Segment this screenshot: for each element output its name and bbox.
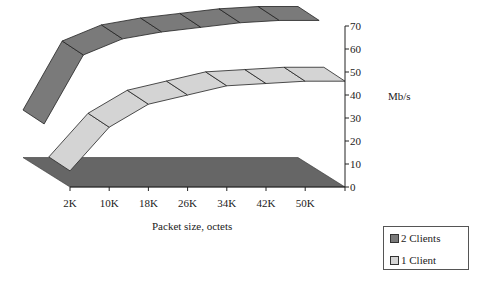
y-tick-label: 70	[350, 20, 362, 32]
x-tick-label: 18K	[139, 197, 158, 209]
x-tick-label: 42K	[257, 197, 276, 209]
legend-label-1-client: 1 Client	[401, 254, 436, 266]
legend-item-2-clients: 2 Clients	[390, 232, 440, 244]
legend-item-1-client: 1 Client	[390, 254, 436, 266]
y-tick-label: 50	[350, 66, 362, 78]
y-tick-label: 10	[350, 158, 362, 170]
legend-swatch-2-clients	[390, 234, 399, 243]
series-2-clients-ribbon	[23, 7, 319, 124]
x-tick-label: 2K	[63, 197, 77, 209]
y-tick-label: 20	[350, 135, 362, 147]
series-1-client-ribbon	[49, 67, 345, 171]
x-tick-label: 10K	[100, 197, 119, 209]
x-axis: 2K10K18K26K34K42K50K	[63, 187, 345, 209]
y-tick-label: 60	[350, 43, 362, 55]
y-tick-label: 30	[350, 112, 362, 124]
legend-swatch-1-client	[390, 256, 399, 265]
y-axis-title: Mb/s	[388, 90, 411, 102]
y-tick-label: 40	[350, 89, 362, 101]
y-axis: 010203040506070	[345, 20, 362, 193]
x-tick-label: 34K	[217, 197, 236, 209]
y-tick-label: 0	[350, 181, 356, 193]
legend-label-2-clients: 2 Clients	[401, 232, 440, 244]
legend: 2 Clients 1 Client	[383, 226, 469, 270]
x-tick-label: 26K	[178, 197, 197, 209]
x-tick-label: 50K	[296, 197, 315, 209]
x-axis-title: Packet size, octets	[152, 220, 232, 232]
